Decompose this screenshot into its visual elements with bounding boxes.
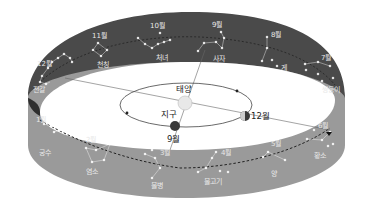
- month-label-12: 12월: [37, 59, 52, 68]
- month-label-1: 1월: [36, 115, 46, 124]
- constellation-label-capricornus: 염소: [86, 168, 99, 176]
- month-label-10: 10월: [150, 21, 165, 30]
- constellation-label-leo: 사자: [213, 54, 226, 63]
- constellation-label-aquarius: 물병: [151, 181, 163, 190]
- constellation-label-cancer: 게: [281, 63, 287, 72]
- month-label-7: 7월: [321, 53, 331, 62]
- earth-december-label: 12월: [251, 111, 270, 121]
- earth-label: 지구: [161, 109, 177, 119]
- month-label-6: 6월: [318, 121, 328, 130]
- constellation-label-taurus: 황소: [314, 151, 327, 160]
- constellation-label-gemini: 쌍둥이: [322, 85, 340, 94]
- month-label-4: 4월: [221, 148, 231, 157]
- month-label-3: 3월: [160, 148, 170, 157]
- constellation-label-libra: 천칭: [97, 60, 109, 69]
- month-label-9: 9월: [212, 20, 222, 29]
- constellation-label-virgo: 처녀: [156, 53, 168, 62]
- earth-september-label: 9월: [167, 134, 180, 144]
- constellation-label-aries: 양: [271, 170, 278, 178]
- month-label-11: 11월: [92, 31, 107, 40]
- zodiac-diagram: 태양 지구 9월 12월: [0, 0, 369, 205]
- constellation-label-pisces: 물고기: [204, 177, 222, 186]
- month-label-8: 8월: [271, 30, 281, 39]
- constellation-label-scorpius: 전갈: [33, 85, 46, 94]
- month-label-5: 5월: [271, 139, 281, 148]
- earth-september-icon: [170, 121, 180, 131]
- sun-label: 태양: [176, 84, 192, 94]
- constellation-label-sagittarius: 궁수: [39, 149, 52, 157]
- month-label-2: 2월: [86, 135, 96, 144]
- sun-icon: [178, 96, 192, 110]
